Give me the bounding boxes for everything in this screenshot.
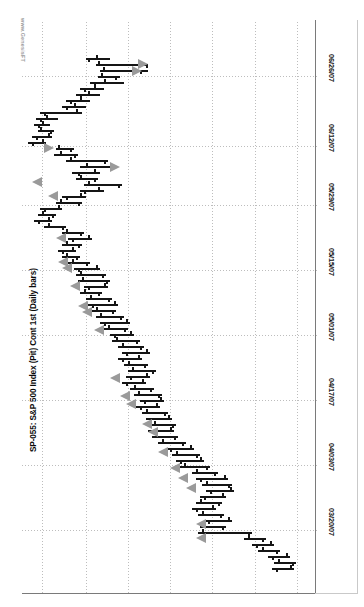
bar-close-tick bbox=[218, 503, 220, 506]
signal-arrow-left bbox=[110, 373, 120, 383]
bar-open-tick bbox=[74, 103, 76, 106]
bar-open-tick bbox=[146, 373, 148, 376]
bar-close-tick bbox=[36, 137, 38, 140]
bar-open-tick bbox=[101, 73, 103, 76]
bar-open-tick bbox=[42, 121, 44, 124]
signal-arrow-left bbox=[158, 447, 168, 457]
bar-close-tick bbox=[76, 257, 78, 260]
bar-close-tick bbox=[52, 215, 54, 218]
bar-close-tick bbox=[112, 311, 114, 314]
bar-open-tick bbox=[96, 55, 98, 58]
bar-open-tick bbox=[286, 553, 288, 556]
date-gridline-0 bbox=[22, 76, 318, 77]
bar-close-tick bbox=[72, 239, 74, 242]
price-gridline-6 bbox=[297, 22, 298, 593]
bar-open-tick bbox=[206, 481, 208, 484]
price-gridline-3 bbox=[170, 22, 171, 593]
bar-range bbox=[198, 532, 252, 534]
signal-arrow-right bbox=[110, 162, 120, 172]
date-gridline-7 bbox=[22, 530, 318, 531]
date-gridline-4 bbox=[22, 335, 318, 336]
bar-open-tick bbox=[96, 265, 98, 268]
bar-open-tick bbox=[146, 349, 148, 352]
bar-open-tick bbox=[134, 385, 136, 388]
date-tick-label: 03/20/07 bbox=[327, 508, 336, 536]
bar-open-tick bbox=[224, 475, 226, 478]
bar-close-tick bbox=[92, 305, 94, 308]
date-tick-label: 05/29/07 bbox=[327, 183, 336, 211]
bar-open-tick bbox=[98, 61, 100, 64]
bar-open-tick bbox=[248, 535, 250, 538]
bar-open-tick bbox=[200, 457, 202, 460]
bar-open-tick bbox=[154, 421, 156, 424]
bar-open-tick bbox=[70, 157, 72, 160]
bar-open-tick bbox=[162, 439, 164, 442]
date-tick-label: 04/03/07 bbox=[327, 443, 336, 471]
bar-open-tick bbox=[80, 175, 82, 178]
outer-frame-bottom bbox=[315, 593, 358, 594]
bar-range bbox=[84, 184, 122, 186]
bar-open-tick bbox=[80, 271, 82, 274]
bar-open-tick bbox=[156, 403, 158, 406]
bar-open-tick bbox=[212, 505, 214, 508]
bar-range bbox=[66, 160, 108, 162]
signal-arrow-left bbox=[56, 233, 66, 243]
bar-close-tick bbox=[44, 209, 46, 212]
date-tick-label: 06/12/07 bbox=[327, 124, 336, 152]
bar-close-tick bbox=[196, 455, 198, 458]
bar-open-tick bbox=[270, 541, 272, 544]
signal-arrow-right bbox=[44, 143, 54, 153]
outer-frame-right bbox=[357, 20, 358, 594]
price-gridline-2 bbox=[128, 22, 129, 593]
bar-open-tick bbox=[48, 223, 50, 226]
signal-arrow-left bbox=[170, 463, 180, 473]
bar-open-tick bbox=[42, 139, 44, 142]
bar-range bbox=[72, 172, 100, 174]
bar-close-tick bbox=[124, 329, 126, 332]
bar-close-tick bbox=[272, 557, 274, 560]
bar-close-tick bbox=[50, 131, 52, 134]
price-gridline-5 bbox=[255, 22, 256, 593]
bar-close-tick bbox=[206, 467, 208, 470]
bar-open-tick bbox=[96, 307, 98, 310]
bar-open-tick bbox=[262, 547, 264, 550]
bar-open-tick bbox=[86, 163, 88, 166]
bar-close-tick bbox=[88, 287, 90, 290]
bar-close-tick bbox=[208, 521, 210, 524]
bar-open-tick bbox=[58, 145, 60, 148]
bar-close-tick bbox=[108, 299, 110, 302]
bar-close-tick bbox=[66, 107, 68, 110]
bar-open-tick bbox=[60, 151, 62, 154]
bar-close-tick bbox=[66, 197, 68, 200]
signal-arrow-left bbox=[32, 177, 42, 187]
date-axis-line bbox=[315, 20, 316, 594]
bar-open-tick bbox=[88, 91, 90, 94]
bar-open-tick bbox=[278, 559, 280, 562]
bar-close-tick bbox=[144, 365, 146, 368]
bar-open-tick bbox=[98, 187, 100, 190]
bar-open-tick bbox=[48, 133, 50, 136]
price-gridline-0 bbox=[42, 22, 43, 593]
bar-close-tick bbox=[84, 191, 86, 194]
date-gridline-1 bbox=[22, 146, 318, 147]
bar-open-tick bbox=[176, 451, 178, 454]
bar-close-tick bbox=[144, 401, 146, 404]
price-axis-line bbox=[22, 593, 319, 594]
date-tick-label: 05/15/07 bbox=[327, 248, 336, 276]
bar-open-tick bbox=[170, 427, 172, 430]
bar-open-tick bbox=[130, 331, 132, 334]
bar-open-tick bbox=[88, 181, 90, 184]
bar-open-tick bbox=[66, 253, 68, 256]
signal-arrow-left bbox=[70, 281, 80, 291]
bar-close-tick bbox=[182, 443, 184, 446]
bar-close-tick bbox=[140, 407, 142, 410]
bar-open-tick bbox=[66, 229, 68, 232]
signal-arrow-left bbox=[126, 399, 136, 409]
bar-close-tick bbox=[84, 89, 86, 92]
bar-open-tick bbox=[202, 511, 204, 514]
bar-close-tick bbox=[172, 425, 174, 428]
bar-close-tick bbox=[140, 347, 142, 350]
bar-open-tick bbox=[122, 343, 124, 346]
bar-close-tick bbox=[214, 473, 216, 476]
date-gridline-5 bbox=[22, 400, 318, 401]
